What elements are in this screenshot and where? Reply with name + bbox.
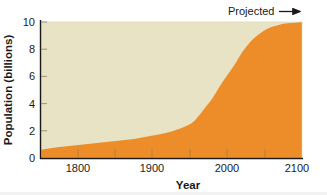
x-tick-label: 2100	[285, 162, 309, 174]
projected-label: Projected	[228, 5, 274, 17]
y-tick-label: 4	[29, 98, 35, 110]
y-tick-label: 10	[23, 16, 35, 28]
x-tick-label: 1800	[66, 162, 90, 174]
x-tick-label: 2000	[215, 162, 239, 174]
y-axis-title: Population (billions)	[2, 35, 14, 146]
y-tick-label: 6	[29, 70, 35, 82]
x-axis-title: Year	[176, 179, 201, 191]
y-tick-label: 8	[29, 43, 35, 55]
y-tick-label: 2	[29, 125, 35, 137]
y-tick-label: 0	[29, 152, 35, 164]
x-tick-label: 1900	[140, 162, 164, 174]
page-bottom-rule	[0, 192, 327, 195]
population-growth-chart: 10 8 6 4 2 0 1800 1900 2000 2100 Year Po…	[0, 0, 327, 195]
chart-svg: 10 8 6 4 2 0 1800 1900 2000 2100 Year Po…	[0, 0, 327, 195]
